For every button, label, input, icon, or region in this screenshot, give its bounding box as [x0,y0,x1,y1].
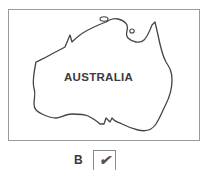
map-label: AUSTRALIA [64,71,133,83]
australia-map-outline [0,0,207,170]
island-shape [130,29,134,33]
answer-letter-label: B [74,153,83,167]
island-shape [100,17,108,21]
checkmark-icon: ✔ [99,152,111,168]
answer-checkbox[interactable]: ✔ [93,150,116,170]
